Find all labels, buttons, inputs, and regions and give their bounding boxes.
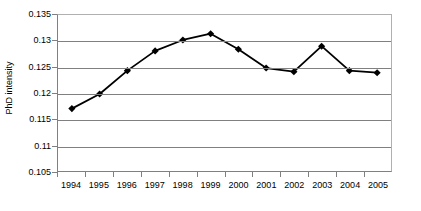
x-tick-label: 1996 [117,180,137,190]
x-tick-label: 2005 [368,180,388,190]
x-tick-mark [141,172,142,177]
gridline [58,68,391,69]
y-tick-label: 0.115 [29,114,51,124]
x-tick-mark [308,172,309,177]
y-axis-tick-labels: 0.1350.130.1250.120.1150.110.105 [18,14,54,172]
y-tick-mark [52,14,57,15]
plot-area [57,14,392,172]
x-tick-label: 2000 [228,180,248,190]
gridline [58,120,391,121]
x-tick-mark [364,172,365,177]
x-tick-label: 1997 [145,180,165,190]
data-point-marker [179,36,186,43]
x-tick-label: 2002 [284,180,304,190]
x-tick-mark [85,172,86,177]
y-tick-mark [52,93,57,94]
x-tick-mark [252,172,253,177]
gridline [58,41,391,42]
y-tick-mark [52,40,57,41]
y-tick-mark [52,146,57,147]
y-tick-label: 0.12 [33,88,51,98]
y-tick-label: 0.125 [28,62,51,72]
y-tick-label: 0.11 [34,141,51,151]
x-tick-mark [336,172,337,177]
y-tick-mark [52,67,57,68]
y-tick-label: 0.13 [33,35,51,45]
data-point-marker [374,69,381,76]
x-tick-mark [197,172,198,177]
gridline [58,94,391,95]
x-tick-mark [113,172,114,177]
x-tick-label: 2004 [340,180,360,190]
gridline [58,147,391,148]
y-tick-label: 0.105 [28,167,51,177]
series-polyline [72,34,377,109]
y-tick-label: 0.135 [28,9,51,19]
y-axis-title: PhD intensity [0,0,18,175]
x-tick-mark [169,172,170,177]
x-tick-label: 2003 [312,180,332,190]
y-tick-mark [52,119,57,120]
x-tick-label: 2001 [256,180,276,190]
x-tick-mark [57,172,58,177]
x-tick-label: 1994 [61,180,81,190]
data-point-marker [68,105,75,112]
x-tick-label: 1998 [173,180,193,190]
y-axis-title-label: PhD intensity [4,61,14,114]
x-tick-mark [280,172,281,177]
data-point-marker [207,30,214,37]
x-tick-mark [225,172,226,177]
x-tick-label: 1995 [89,180,109,190]
phd-intensity-line-chart: PhD intensity 0.1350.130.1250.120.1150.1… [0,0,421,211]
x-tick-label: 1999 [201,180,221,190]
